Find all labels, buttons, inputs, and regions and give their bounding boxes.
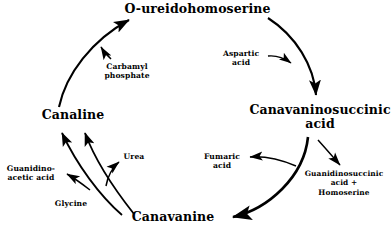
label-guanidinoacetic-acid: Guanidino- acetic acid xyxy=(0,164,62,182)
arrow-aspartic-acid xyxy=(268,56,291,63)
node-canavaninosuccinic-acid: Canavaninosuccinic acid xyxy=(248,103,392,131)
label-carbamyl-phosphate: Carbamyl phosphate xyxy=(96,62,158,80)
label-urea: Urea xyxy=(118,152,150,161)
arrow-carbamyl-phosphate xyxy=(101,47,111,59)
label-guanidinosuccinic-acid-homoserine: Guanidinosuccinic acid + Homoserine xyxy=(296,169,392,197)
node-canaline: Canaline xyxy=(27,108,119,122)
arrow-guanidinosuccinic xyxy=(318,140,340,165)
label-aspartic-acid: Aspartic acid xyxy=(216,49,266,67)
node-o-ureidohomoserine: O-ureidohomoserine xyxy=(110,2,285,16)
pathway-diagram: O-ureidohomoserine Canavaninosuccinic ac… xyxy=(0,0,392,233)
node-canavanine: Canavanine xyxy=(118,210,228,224)
label-glycine: Glycine xyxy=(50,199,92,208)
arrow-fumaric-acid xyxy=(250,157,296,166)
arrow-urea xyxy=(106,162,119,186)
label-fumaric-acid: Fumaric acid xyxy=(198,152,246,170)
